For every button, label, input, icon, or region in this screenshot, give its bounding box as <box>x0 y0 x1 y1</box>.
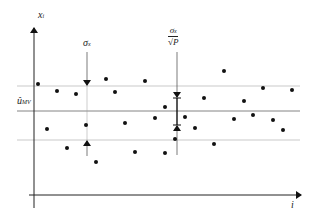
sigma-mean-denominator: √P <box>168 37 178 47</box>
sigma-label: σx <box>83 38 91 48</box>
sigma-mean-numerator-subscript: x <box>174 28 177 34</box>
mean-label-subscript: MV <box>22 99 31 105</box>
data-points <box>36 69 294 164</box>
x-axis-label: i <box>291 200 294 210</box>
x-axis-label-text: i <box>291 199 294 210</box>
y-axis-label-subscript: i <box>42 13 44 19</box>
mean-label: ûMV <box>17 96 31 106</box>
sigma-mean-label: σx √P <box>168 26 178 47</box>
sigma-mean-numerator: σx <box>168 26 178 37</box>
y-axis-label: xi <box>38 10 44 20</box>
diagram-canvas <box>0 0 315 221</box>
sigma-label-subscript: x <box>88 41 91 47</box>
